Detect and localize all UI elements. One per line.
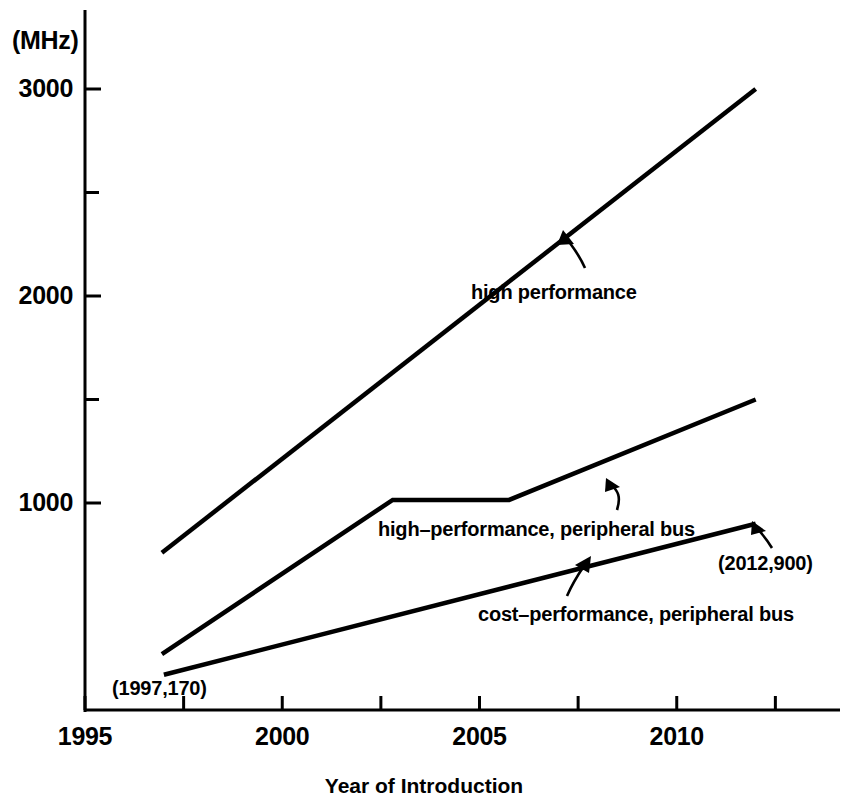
y-tick-label: 2000 — [0, 283, 73, 308]
y-tick-label: 1000 — [0, 490, 73, 515]
y-axis-unit-label: (MHz) — [12, 28, 79, 53]
x-tick-label: 2000 — [222, 724, 342, 749]
x-axis-title: Year of Introduction — [0, 775, 848, 796]
leader-arrow-1 — [605, 478, 620, 492]
x-tick-label: 2005 — [420, 724, 540, 749]
x-tick-label: 2010 — [617, 724, 737, 749]
series-label-1: high–performance, peripheral bus — [378, 519, 695, 539]
point-label-2012-900: (2012,900) — [718, 553, 813, 573]
series-line-0 — [162, 89, 756, 553]
x-tick-label: 1995 — [25, 724, 145, 749]
point-label-1997-170: (1997,170) — [112, 678, 207, 698]
y-tick-label: 3000 — [0, 76, 73, 101]
chart-figure: (MHz) 100020003000 1995200020052010 high… — [0, 0, 848, 807]
point-leader-arrow-1 — [751, 521, 766, 535]
series-label-0: high performance — [471, 282, 637, 302]
series-line-2 — [164, 524, 756, 675]
data-series — [162, 89, 756, 675]
series-label-2: cost–performance, peripheral bus — [478, 604, 794, 624]
